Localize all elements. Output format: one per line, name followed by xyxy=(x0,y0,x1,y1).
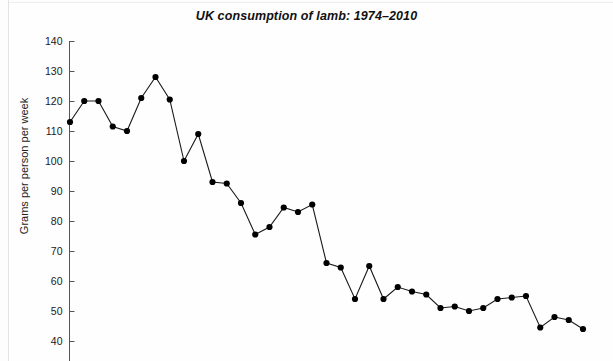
data-series-markers xyxy=(67,74,586,332)
data-point xyxy=(266,224,272,230)
data-point xyxy=(238,200,244,206)
data-point xyxy=(67,119,73,125)
data-point xyxy=(566,317,572,323)
data-point xyxy=(81,98,87,104)
y-tick-label: 130 xyxy=(45,65,63,77)
y-tick-label: 80 xyxy=(51,215,63,227)
data-point xyxy=(323,260,329,266)
y-tick-label: 60 xyxy=(51,275,63,287)
y-tick-label: 40 xyxy=(51,335,63,347)
data-point xyxy=(152,74,158,80)
y-axis-ticks: 405060708090100110120130140 xyxy=(45,35,75,347)
data-point xyxy=(167,96,173,102)
data-point xyxy=(181,158,187,164)
data-point xyxy=(309,201,315,207)
data-point xyxy=(195,131,201,137)
data-point xyxy=(124,128,130,134)
y-tick-label: 100 xyxy=(45,155,63,167)
y-tick-label: 70 xyxy=(51,245,63,257)
data-point xyxy=(551,314,557,320)
chart-page: UK consumption of lamb: 1974–2010 Grams … xyxy=(0,0,613,361)
y-tick-label: 140 xyxy=(45,35,63,47)
y-tick-label: 90 xyxy=(51,185,63,197)
data-point xyxy=(295,209,301,215)
data-point xyxy=(138,95,144,101)
data-point xyxy=(409,288,415,294)
data-series-line xyxy=(70,77,583,329)
data-point xyxy=(209,179,215,185)
data-point xyxy=(523,293,529,299)
data-point xyxy=(494,296,500,302)
data-point xyxy=(423,291,429,297)
data-point xyxy=(352,296,358,302)
data-point xyxy=(509,294,515,300)
line-chart-plot: 405060708090100110120130140 xyxy=(0,0,613,361)
data-point xyxy=(580,326,586,332)
data-point xyxy=(224,180,230,186)
data-point xyxy=(281,204,287,210)
data-point xyxy=(537,324,543,330)
y-tick-label: 110 xyxy=(46,125,63,137)
data-point xyxy=(252,231,258,237)
data-point xyxy=(95,98,101,104)
data-point xyxy=(110,123,116,129)
y-tick-label: 120 xyxy=(45,95,63,107)
y-tick-label: 50 xyxy=(51,305,63,317)
data-point xyxy=(366,263,372,269)
data-point xyxy=(338,264,344,270)
data-point xyxy=(466,308,472,314)
data-point xyxy=(480,305,486,311)
data-point xyxy=(380,296,386,302)
data-point xyxy=(437,305,443,311)
data-point xyxy=(452,303,458,309)
data-point xyxy=(395,284,401,290)
